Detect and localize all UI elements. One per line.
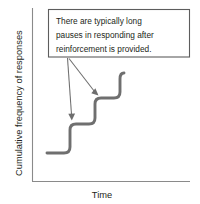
x-axis-label: Time bbox=[92, 190, 112, 200]
callout-text-line-1: There are typically long bbox=[56, 16, 142, 26]
callout-text-line-2: pauses in responding after bbox=[56, 30, 154, 40]
arrow-head-left-icon bbox=[68, 113, 75, 120]
cumulative-record-figure: There are typically long pauses in respo… bbox=[0, 0, 200, 204]
arrow-line-left bbox=[68, 58, 72, 115]
cumulative-response-curve bbox=[47, 73, 124, 153]
arrow-line-right bbox=[69, 59, 95, 92]
figure-canvas: There are typically long pauses in respo… bbox=[0, 0, 200, 204]
y-axis-label: Cumulative frequency of responses bbox=[14, 30, 24, 176]
callout-text-line-3: reinforcement is provided. bbox=[56, 44, 151, 54]
